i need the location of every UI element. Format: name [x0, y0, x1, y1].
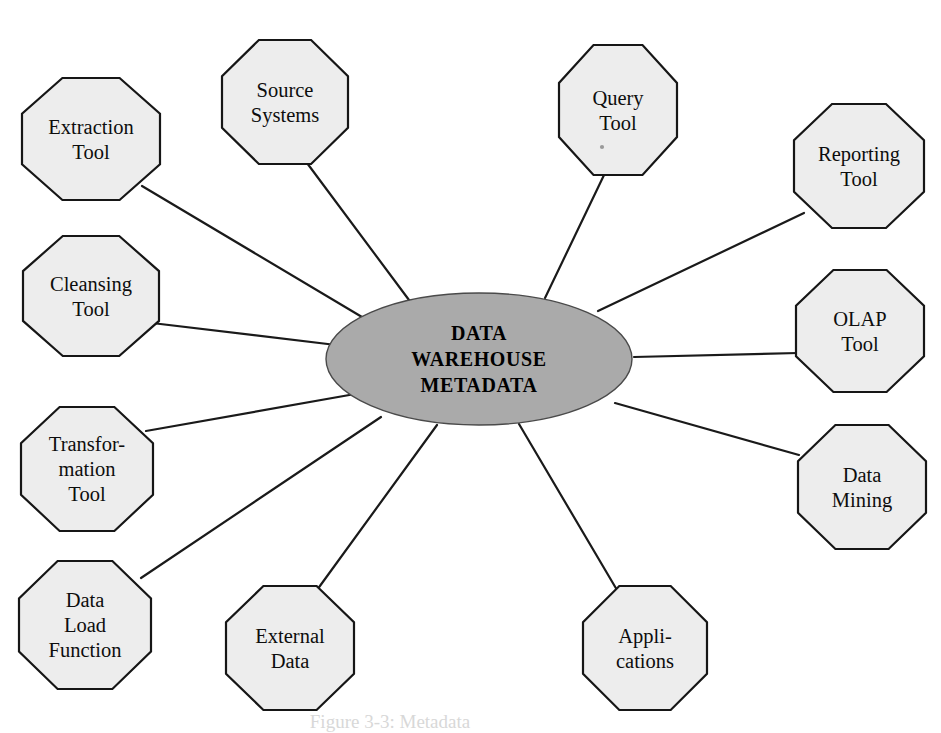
- node-label-data-load-function: Function: [49, 639, 122, 661]
- node-cleansing-tool[interactable]: CleansingTool: [23, 236, 159, 356]
- node-external-data[interactable]: ExternalData: [226, 586, 354, 710]
- connector-source-systems: [307, 163, 409, 300]
- node-shape-data-mining: [798, 425, 926, 549]
- node-label-reporting-tool: Reporting: [818, 143, 900, 166]
- node-label-data-load-function: Load: [64, 614, 106, 636]
- node-label-external-data: External: [255, 625, 325, 647]
- node-shape-extraction-tool: [22, 78, 160, 200]
- node-label-cleansing-tool: Tool: [72, 298, 110, 320]
- node-shape-source-systems: [222, 40, 348, 164]
- node-label-reporting-tool: Tool: [840, 168, 878, 190]
- node-label-transformation-tool: Tool: [68, 483, 106, 505]
- node-transformation-tool[interactable]: Transfor-mationTool: [21, 407, 153, 531]
- connector-external-data: [317, 425, 437, 590]
- node-label-data-load-function: Data: [66, 589, 105, 611]
- node-applications[interactable]: Appli-cations: [583, 586, 707, 710]
- connector-extraction-tool: [142, 186, 367, 320]
- node-label-query-tool: Tool: [599, 112, 637, 134]
- scan-speck-artifact: [600, 145, 604, 149]
- connector-transformation-tool: [146, 394, 355, 431]
- connector-data-load-function: [141, 417, 381, 578]
- scan-artifact-layer: [600, 145, 604, 149]
- node-shape-olap-tool: [796, 270, 924, 392]
- node-label-olap-tool: OLAP: [833, 308, 887, 330]
- connector-applications: [519, 424, 617, 590]
- hub-label-line: WAREHOUSE: [411, 348, 546, 370]
- node-data-mining[interactable]: DataMining: [798, 425, 926, 549]
- node-label-source-systems: Systems: [251, 104, 319, 127]
- connector-reporting-tool: [598, 213, 804, 311]
- node-label-extraction-tool: Tool: [72, 141, 110, 163]
- hub-layer: DATAWAREHOUSEMETADATA: [326, 293, 632, 425]
- hub-label-line: DATA: [451, 322, 507, 344]
- node-shape-external-data: [226, 586, 354, 710]
- figure-caption-text: Figure 3-3: Metadata: [310, 711, 471, 732]
- node-label-data-mining: Mining: [832, 489, 892, 512]
- metadata-hub-and-spoke-diagram: ExtractionToolSourceSystemsQueryToolRepo…: [0, 0, 941, 733]
- node-label-data-mining: Data: [843, 464, 882, 486]
- node-label-transformation-tool: Transfor-: [49, 433, 125, 455]
- data-warehouse-metadata-hub[interactable]: DATAWAREHOUSEMETADATA: [326, 293, 632, 425]
- node-shape-cleansing-tool: [23, 236, 159, 356]
- node-shape-applications: [583, 586, 707, 710]
- node-label-external-data: Data: [271, 650, 310, 672]
- figure-caption: Figure 3-3: Metadata: [310, 711, 471, 732]
- connector-query-tool: [545, 173, 605, 298]
- connector-olap-tool: [634, 353, 798, 357]
- node-source-systems[interactable]: SourceSystems: [222, 40, 348, 164]
- node-data-load-function[interactable]: DataLoadFunction: [19, 561, 151, 689]
- node-label-cleansing-tool: Cleansing: [50, 273, 132, 296]
- node-label-extraction-tool: Extraction: [48, 116, 133, 138]
- node-label-source-systems: Source: [257, 79, 314, 101]
- hub-label-line: METADATA: [420, 374, 537, 396]
- node-label-olap-tool: Tool: [841, 333, 879, 355]
- connector-data-mining: [615, 403, 799, 455]
- node-label-applications: cations: [616, 650, 674, 672]
- node-query-tool[interactable]: QueryTool: [559, 45, 677, 175]
- node-extraction-tool[interactable]: ExtractionTool: [22, 78, 160, 200]
- connector-cleansing-tool: [152, 323, 336, 345]
- node-olap-tool[interactable]: OLAPTool: [796, 270, 924, 392]
- node-reporting-tool[interactable]: ReportingTool: [794, 104, 924, 228]
- node-shape-query-tool: [559, 45, 677, 175]
- node-label-applications: Appli-: [618, 625, 672, 648]
- node-label-query-tool: Query: [592, 87, 644, 110]
- node-label-transformation-tool: mation: [59, 458, 116, 480]
- diagram-canvas: ExtractionToolSourceSystemsQueryToolRepo…: [0, 0, 941, 733]
- node-shape-reporting-tool: [794, 104, 924, 228]
